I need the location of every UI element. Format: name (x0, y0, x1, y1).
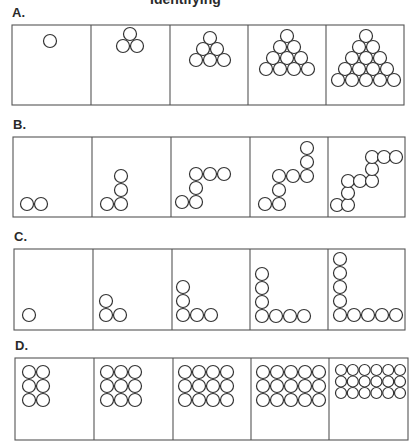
circle-d-panel-4 (285, 394, 298, 407)
circle-b-panel-3 (190, 182, 203, 195)
circle-b-panel-5 (378, 151, 391, 164)
circle-c-panel-1 (23, 309, 36, 322)
circle-b-panel-4 (301, 156, 314, 169)
circle-d-panel-2 (129, 394, 142, 407)
circle-d-panel-3 (221, 380, 234, 393)
circle-d-panel-3 (179, 366, 192, 379)
circle-c-panel-4 (284, 310, 297, 323)
circle-d-panel-5 (336, 388, 347, 399)
circle-d-panel-1 (37, 366, 50, 379)
circle-d-panel-4 (299, 380, 312, 393)
circle-b-panel-1 (21, 198, 34, 211)
circle-c-panel-3 (177, 295, 190, 308)
circle-b-panel-4 (273, 198, 286, 211)
circle-b-panel-2 (115, 198, 128, 211)
circle-a-panel-4 (274, 63, 287, 76)
circle-d-panel-3 (207, 380, 220, 393)
circle-d-panel-5 (395, 376, 406, 387)
circle-d-panel-3 (221, 394, 234, 407)
circle-d-panel-1 (23, 394, 36, 407)
circle-d-panel-5 (347, 376, 358, 387)
circle-b-panel-5 (342, 175, 355, 188)
circle-a-panel-2 (131, 40, 144, 53)
circle-a-panel-1 (44, 35, 57, 48)
circle-c-panel-4 (270, 310, 283, 323)
circle-d-panel-3 (179, 394, 192, 407)
circle-c-panel-5 (334, 253, 347, 266)
circle-a-panel-5 (374, 74, 387, 87)
circle-d-panel-5 (383, 388, 394, 399)
circle-c-panel-5 (362, 309, 375, 322)
circle-a-panel-2 (124, 28, 137, 41)
circle-d-panel-5 (359, 388, 370, 399)
circle-b-panel-3 (218, 168, 231, 181)
circle-c-panel-2 (100, 309, 113, 322)
circle-d-panel-4 (285, 380, 298, 393)
circle-d-panel-3 (193, 380, 206, 393)
circle-a-panel-3 (218, 54, 231, 67)
circle-d-panel-2 (101, 380, 114, 393)
circle-d-panel-3 (179, 380, 192, 393)
circle-d-panel-2 (115, 380, 128, 393)
circle-d-panel-4 (257, 366, 270, 379)
circle-b-panel-2 (101, 198, 114, 211)
circle-d-panel-1 (37, 394, 50, 407)
circle-d-panel-4 (257, 394, 270, 407)
circle-b-panel-3 (190, 196, 203, 209)
circle-b-panel-2 (115, 184, 128, 197)
circle-a-panel-5 (346, 74, 359, 87)
circle-d-panel-2 (101, 394, 114, 407)
circle-d-panel-5 (336, 365, 347, 376)
circle-c-panel-3 (191, 309, 204, 322)
circle-c-panel-4 (256, 310, 269, 323)
circle-d-panel-1 (23, 380, 36, 393)
circle-d-panel-4 (271, 380, 284, 393)
circle-d-panel-2 (101, 366, 114, 379)
circle-b-panel-3 (176, 196, 189, 209)
circle-d-panel-1 (37, 380, 50, 393)
circle-d-panel-2 (115, 394, 128, 407)
circle-d-panel-5 (347, 388, 358, 399)
circle-d-panel-5 (359, 365, 370, 376)
circle-b-panel-5 (366, 163, 379, 176)
circle-c-panel-5 (390, 309, 403, 322)
circle-c-panel-5 (376, 309, 389, 322)
circle-c-panel-5 (334, 309, 347, 322)
circle-b-panel-4 (301, 142, 314, 155)
circle-c-panel-2 (114, 309, 127, 322)
circle-d-panel-2 (129, 366, 142, 379)
circle-d-panel-4 (285, 366, 298, 379)
circle-b-panel-4 (273, 170, 286, 183)
circle-c-panel-5 (334, 267, 347, 280)
circle-d-panel-3 (193, 394, 206, 407)
circle-a-panel-4 (288, 63, 301, 76)
circle-c-panel-3 (177, 309, 190, 322)
circle-c-panel-5 (334, 281, 347, 294)
circle-d-panel-2 (129, 380, 142, 393)
circle-d-panel-3 (207, 394, 220, 407)
circle-b-panel-4 (259, 198, 272, 211)
circle-d-panel-5 (347, 365, 358, 376)
circle-d-panel-5 (371, 376, 382, 387)
circle-d-panel-5 (383, 365, 394, 376)
circle-c-panel-2 (100, 295, 113, 308)
circle-c-panel-5 (348, 309, 361, 322)
circle-d-panel-4 (313, 394, 326, 407)
circle-d-panel-4 (271, 394, 284, 407)
circle-b-panel-3 (204, 168, 217, 181)
circle-a-panel-4 (260, 63, 273, 76)
circle-c-panel-3 (177, 281, 190, 294)
circle-b-panel-4 (287, 170, 300, 183)
circle-d-panel-5 (383, 376, 394, 387)
circle-c-panel-4 (256, 268, 269, 281)
circle-d-panel-4 (299, 366, 312, 379)
circle-d-panel-4 (299, 394, 312, 407)
circle-a-panel-3 (204, 54, 217, 67)
circle-b-panel-5 (342, 199, 355, 212)
circle-d-panel-3 (193, 366, 206, 379)
circle-a-panel-4 (302, 63, 315, 76)
circle-d-panel-5 (359, 376, 370, 387)
circle-d-panel-4 (271, 366, 284, 379)
circle-d-panel-4 (257, 380, 270, 393)
circle-d-panel-1 (23, 366, 36, 379)
